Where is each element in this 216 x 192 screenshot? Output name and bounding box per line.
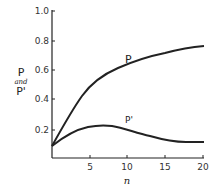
series-p-label: P (125, 53, 132, 66)
series-p-prime-line (52, 125, 204, 146)
x-axis: 5 10 15 20 n (52, 155, 209, 186)
chart: 1.0 0.8 0.6 0.4 0.2 5 10 15 20 n P and P… (0, 0, 216, 192)
x-tick-label: 5 (87, 162, 93, 172)
x-tick-label: 20 (197, 162, 209, 172)
y-tick-label: 0.8 (35, 36, 50, 46)
y-axis-label: P and P' (14, 66, 28, 98)
y-tick-label: 0.4 (35, 94, 50, 104)
y-tick-label: 0.6 (35, 65, 50, 75)
svg-text:P': P' (16, 85, 26, 98)
y-tick-label: 0.2 (35, 125, 49, 135)
series-p-prime-label: P' (125, 115, 133, 125)
y-axis: 1.0 0.8 0.6 0.4 0.2 (35, 6, 55, 158)
x-tick-label: 15 (159, 162, 170, 172)
x-tick-label: 10 (121, 162, 133, 172)
y-tick-label: 1.0 (35, 6, 50, 16)
x-axis-label: n (124, 175, 130, 186)
